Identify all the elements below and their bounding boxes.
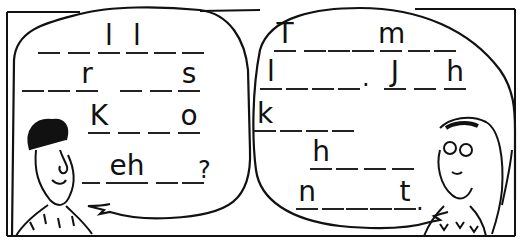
period: . xyxy=(362,66,370,90)
slot xyxy=(362,130,388,170)
slot xyxy=(302,12,328,52)
slot: m xyxy=(378,12,404,52)
slot: k xyxy=(252,92,278,132)
slot: J xyxy=(382,50,408,90)
slot: K xyxy=(86,94,112,134)
slot xyxy=(152,14,178,54)
slot xyxy=(406,12,432,52)
slot: eh xyxy=(104,144,150,184)
slot: h xyxy=(442,50,468,90)
slot xyxy=(368,170,394,210)
slot: T xyxy=(272,12,298,52)
slot: h xyxy=(308,130,334,170)
slot: t xyxy=(392,170,418,210)
question-mark: ? xyxy=(198,158,211,182)
slot: l xyxy=(96,14,122,54)
slot xyxy=(118,52,144,92)
slot xyxy=(278,92,304,132)
slot xyxy=(432,12,458,52)
slot xyxy=(350,12,376,52)
slot: l xyxy=(124,14,150,54)
slot xyxy=(66,14,92,54)
slot xyxy=(390,130,416,170)
slot: r xyxy=(74,52,100,92)
slot xyxy=(412,50,438,90)
slot xyxy=(46,52,72,92)
slot: l xyxy=(258,50,284,90)
slot xyxy=(146,94,172,134)
slot xyxy=(154,144,180,184)
slot xyxy=(116,94,142,134)
slot xyxy=(310,50,336,90)
slot xyxy=(80,144,102,184)
slot xyxy=(334,130,360,170)
slot xyxy=(330,92,356,132)
slot: s xyxy=(176,52,202,92)
slot xyxy=(36,14,62,54)
slot xyxy=(326,12,352,52)
slot xyxy=(344,170,370,210)
slot xyxy=(148,52,174,92)
slot xyxy=(304,92,330,132)
slot xyxy=(20,52,46,92)
slot xyxy=(180,14,206,54)
slot xyxy=(320,170,346,210)
slot: o xyxy=(176,94,202,134)
period: . xyxy=(416,190,424,214)
slot: n xyxy=(294,170,320,210)
slot xyxy=(284,50,310,90)
slot xyxy=(336,50,362,90)
